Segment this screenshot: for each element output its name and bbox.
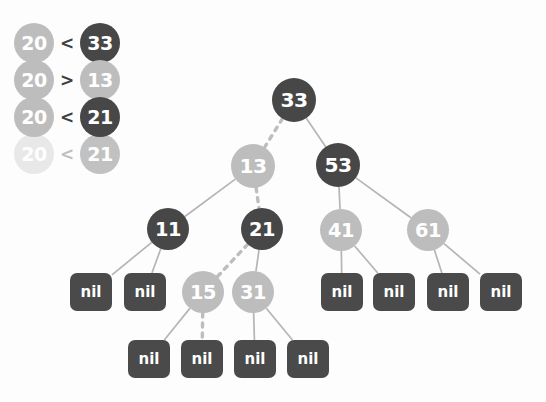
tree-edge	[256, 250, 259, 271]
tree-nil-leaf[interactable]: nil	[427, 273, 469, 311]
comparison-node-chip: 33	[80, 23, 120, 63]
tree-edge	[356, 178, 411, 218]
tree-nil-leaf[interactable]: nil	[128, 340, 170, 378]
tree-diagram-canvas: 20<3320>1320<2120<21 331353112141611531n…	[0, 0, 546, 402]
comparison-operator: >	[54, 70, 80, 90]
tree-edge	[306, 118, 325, 147]
tree-edge	[164, 308, 190, 340]
comparison-node-chip: 21	[80, 134, 120, 174]
comparison-key-chip: 20	[14, 23, 54, 63]
tree-nil-leaf[interactable]: nil	[124, 273, 166, 311]
tree-nil-leaf[interactable]: nil	[373, 273, 415, 311]
tree-nil-leaf[interactable]: nil	[287, 340, 329, 378]
tree-edge-search-path	[217, 244, 247, 276]
tree-node-31[interactable]: 31	[232, 271, 274, 313]
tree-edge-search-path	[256, 188, 259, 208]
tree-node-33[interactable]: 33	[272, 78, 316, 122]
comparison-row: 20>13	[14, 60, 120, 100]
tree-edge	[339, 187, 340, 209]
tree-node-53[interactable]: 53	[316, 143, 360, 187]
comparison-node-chip: 21	[80, 97, 120, 137]
comparison-row: 20<21	[14, 97, 120, 137]
tree-edge	[112, 242, 152, 275]
tree-node-15[interactable]: 15	[182, 271, 224, 313]
comparison-key-chip: 20	[14, 134, 54, 174]
comparison-row: 20<33	[14, 23, 120, 63]
tree-nil-leaf[interactable]: nil	[480, 273, 522, 311]
tree-node-21[interactable]: 21	[241, 208, 283, 250]
comparison-node-chip: 13	[80, 60, 120, 100]
comparison-operator: <	[54, 33, 80, 53]
tree-edge	[355, 246, 378, 273]
tree-edge	[185, 179, 235, 216]
comparison-operator: <	[54, 107, 80, 127]
comparison-key-chip: 20	[14, 97, 54, 137]
tree-nil-leaf[interactable]: nil	[70, 273, 112, 311]
tree-node-11[interactable]: 11	[147, 208, 189, 250]
comparison-key-chip: 20	[14, 60, 54, 100]
tree-nil-leaf[interactable]: nil	[181, 340, 223, 378]
tree-edge	[444, 244, 480, 275]
tree-edge	[266, 308, 292, 340]
tree-edge-search-path	[265, 119, 283, 148]
comparison-row: 20<21	[14, 134, 120, 174]
tree-node-13[interactable]: 13	[231, 144, 275, 188]
tree-edge	[254, 313, 255, 340]
comparison-operator: <	[54, 144, 80, 164]
tree-node-41[interactable]: 41	[320, 209, 362, 251]
tree-edge	[434, 250, 441, 273]
tree-edge	[152, 249, 161, 273]
tree-nil-leaf[interactable]: nil	[234, 340, 276, 378]
tree-node-61[interactable]: 61	[407, 209, 449, 251]
tree-nil-leaf[interactable]: nil	[321, 273, 363, 311]
